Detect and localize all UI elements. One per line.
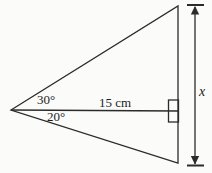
geometry-diagram: 30° 20° 15 cm x bbox=[0, 0, 212, 173]
angle-bottom-label: 20° bbox=[47, 109, 65, 124]
triangle-outline bbox=[11, 6, 178, 163]
height-label: x bbox=[198, 84, 206, 99]
arrowhead-down-icon bbox=[191, 156, 199, 165]
arrowhead-up-icon bbox=[191, 6, 199, 15]
base-length-label: 15 cm bbox=[99, 95, 131, 110]
angle-top-label: 30° bbox=[37, 92, 55, 107]
triangle-figure: 30° 20° 15 cm x bbox=[0, 0, 212, 173]
bisector-line bbox=[11, 110, 178, 111]
